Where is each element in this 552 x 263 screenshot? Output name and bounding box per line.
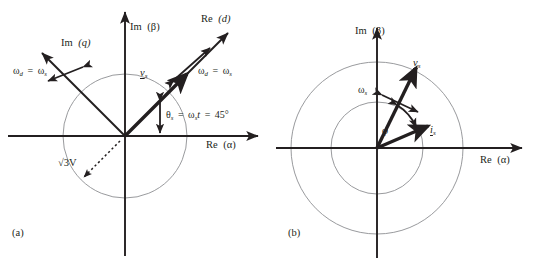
axis-label-imag-q: Im (q) bbox=[61, 38, 91, 49]
axis-label-imag-beta: Im (β) bbox=[130, 22, 160, 33]
panel-b: Im (β) Re (α) vs is ωs φ (b) bbox=[276, 0, 552, 263]
panel-caption-b: (b) bbox=[288, 228, 300, 239]
axis-label-real-alpha: Re (α) bbox=[206, 140, 236, 151]
vector-label-is: is bbox=[430, 125, 436, 137]
magnitude-dotted-line bbox=[84, 141, 120, 177]
panel-a-graphics bbox=[0, 0, 276, 263]
omega-label-left: ωd = ωs bbox=[13, 66, 47, 78]
axis-label-real-alpha: Re (α) bbox=[480, 155, 510, 166]
vector-label-vs: vs bbox=[140, 68, 147, 80]
panel-b-graphics bbox=[276, 0, 552, 263]
axis-label-real-d: Re (d) bbox=[201, 14, 231, 25]
theta-annotation: θs = ωst = 45° bbox=[166, 110, 229, 122]
omega-label: ωs bbox=[358, 85, 367, 97]
magnitude-label: √3V bbox=[58, 158, 77, 169]
phase-angle-label: φ bbox=[382, 126, 388, 137]
panel-caption-a: (a) bbox=[12, 228, 24, 239]
vector-voltage-vs bbox=[125, 74, 187, 136]
axis-imag-q bbox=[42, 53, 125, 136]
vector-label-vs: vs bbox=[413, 58, 420, 70]
panel-a: Im (β) Re (α) Re (d) Im (q) ωd = ωs ωd =… bbox=[0, 0, 276, 263]
omega-marker-left bbox=[48, 67, 83, 81]
figure-root: Im (β) Re (α) Re (d) Im (q) ωd = ωs ωd =… bbox=[0, 0, 552, 263]
axis-label-imag-beta: Im (β) bbox=[355, 26, 385, 37]
omega-label-right: ωd = ωs bbox=[198, 66, 232, 78]
